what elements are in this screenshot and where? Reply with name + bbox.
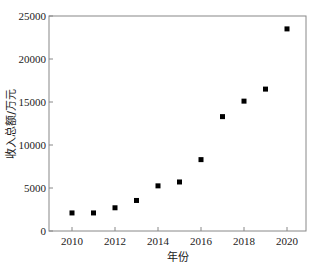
- data-point: [134, 198, 139, 203]
- x-tick-label: 2016: [190, 235, 213, 247]
- data-point: [263, 87, 268, 92]
- data-point: [113, 205, 118, 210]
- data-point: [285, 26, 290, 31]
- data-point: [177, 179, 182, 184]
- x-tick-label: 2010: [61, 235, 84, 247]
- y-tick-label: 5000: [24, 182, 47, 194]
- x-tick-label: 2014: [147, 235, 170, 247]
- data-point: [199, 157, 204, 162]
- data-points: [70, 26, 290, 215]
- y-tick-label: 10000: [19, 139, 47, 151]
- y-tick-label: 15000: [19, 96, 47, 108]
- y-axis-label: 收入总额/万元: [4, 89, 18, 159]
- x-tick-label: 2012: [104, 235, 126, 247]
- data-point: [220, 114, 225, 119]
- x-tick-label: 2018: [233, 235, 256, 247]
- plot-frame: [49, 16, 306, 231]
- scatter-chart: 0500010000150002000025000 20102012201420…: [0, 0, 320, 268]
- data-point: [70, 210, 75, 215]
- y-tick-label: 25000: [19, 10, 47, 22]
- x-tick-label: 2020: [276, 235, 299, 247]
- data-point: [242, 99, 247, 104]
- y-tick-label: 20000: [19, 53, 47, 65]
- data-point: [91, 210, 96, 215]
- x-axis-label: 年份: [167, 250, 189, 264]
- y-axis-ticks: 0500010000150002000025000: [19, 10, 54, 237]
- data-point: [156, 183, 161, 188]
- y-tick-label: 0: [41, 225, 47, 237]
- x-axis-ticks: 201020122014201620182020: [61, 227, 299, 247]
